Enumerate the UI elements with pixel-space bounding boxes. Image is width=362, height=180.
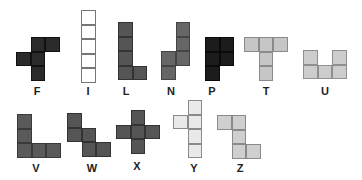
pentomino-label: X	[133, 161, 140, 172]
pentomino-cell	[46, 143, 61, 158]
pentomino-cell	[81, 68, 96, 83]
pentomino-label: F	[34, 86, 41, 97]
pentomino-label: V	[32, 163, 39, 174]
pentomino-cell	[17, 143, 32, 158]
pentomino-cell	[16, 52, 31, 67]
pentomino-cell	[246, 144, 261, 159]
pentomino-cell	[81, 39, 96, 54]
pentomino-cell	[118, 51, 133, 66]
pentomino-cell	[116, 125, 131, 140]
pentomino-cell	[81, 25, 96, 40]
pentomino-cell	[31, 52, 46, 67]
pentomino-cell	[188, 129, 203, 144]
pentomino-cell	[220, 37, 235, 52]
pentomino-cell	[259, 52, 274, 67]
pentomino-cell	[188, 115, 203, 130]
pentomino-label: P	[208, 86, 215, 97]
pentomino-cell	[232, 130, 247, 145]
pentomino-cell	[17, 114, 32, 129]
pentomino-cell	[145, 125, 160, 140]
pentomino-label: N	[167, 86, 175, 97]
pentomino-cell	[82, 142, 97, 157]
pentomino-cell	[232, 115, 247, 130]
pentomino-cell	[82, 128, 97, 143]
pentomino-label: Y	[190, 163, 197, 174]
pentomino-cell	[188, 144, 203, 159]
pentomino-cell	[205, 37, 220, 52]
pentomino-cell	[303, 65, 318, 80]
pentomino-cell	[273, 37, 288, 52]
pentomino-label: W	[87, 163, 97, 174]
pentomino-cell	[332, 50, 347, 65]
pentomino-label: T	[263, 86, 270, 97]
pentomino-label: U	[321, 86, 329, 97]
pentomino-cell	[232, 144, 247, 159]
pentomino-cell	[161, 66, 176, 81]
pentomino-cell	[133, 66, 148, 81]
pentomino-cell	[259, 66, 274, 81]
pentomino-cell	[67, 113, 82, 128]
pentomino-cell	[45, 37, 60, 52]
pentomino-cell	[332, 65, 347, 80]
pentomino-cell	[31, 66, 46, 81]
pentomino-cell	[220, 52, 235, 67]
pentomino-label: Z	[237, 163, 244, 174]
pentomino-cell	[131, 110, 146, 125]
pentomino-cell	[188, 100, 203, 115]
pentomino-label: L	[123, 86, 130, 97]
pentomino-cell	[173, 115, 188, 130]
pentomino-cell	[176, 37, 191, 52]
pentomino-cell	[205, 52, 220, 67]
pentomino-cell	[131, 139, 146, 154]
pentomino-cell	[161, 51, 176, 66]
pentomino-cell	[244, 37, 259, 52]
pentomino-cell	[96, 142, 111, 157]
pentomino-cell	[176, 22, 191, 37]
pentomino-cell	[118, 37, 133, 52]
pentomino-cell	[81, 10, 96, 25]
pentomino-cell	[118, 66, 133, 81]
pentomino-cell	[318, 65, 333, 80]
pentomino-cell	[81, 54, 96, 69]
pentomino-cell	[303, 50, 318, 65]
pentomino-label: I	[86, 86, 89, 97]
pentomino-cell	[67, 128, 82, 143]
pentomino-cell	[118, 22, 133, 37]
pentomino-cell	[32, 143, 47, 158]
pentomino-cell	[17, 129, 32, 144]
pentomino-cell	[217, 115, 232, 130]
pentomino-cell	[205, 66, 220, 81]
pentomino-cell	[176, 51, 191, 66]
pentomino-cell	[131, 125, 146, 140]
pentomino-cell	[259, 37, 274, 52]
pentomino-cell	[31, 37, 46, 52]
